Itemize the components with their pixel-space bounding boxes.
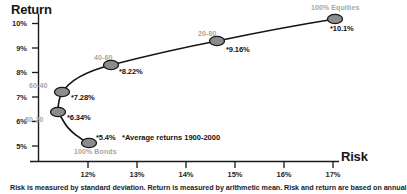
marker-40-60 (104, 60, 119, 69)
y-tick-label-9: 9% (5, 45, 27, 53)
point-label-40-60: 40-60 (94, 54, 112, 61)
point-label-100-bonds: 100% Bonds (74, 148, 117, 155)
data-point-markers (51, 14, 343, 147)
y-axis-title: Return (11, 3, 52, 16)
marker-20-80 (210, 36, 225, 45)
point-label-20-80: 20-80 (198, 30, 216, 37)
y-tick-label-5: 5% (5, 143, 27, 151)
x-tick-label-12: 12% (75, 171, 101, 179)
y-tick-label-6: 6% (5, 118, 27, 126)
frontier-curve (58, 19, 335, 143)
y-tick-label-7: 7% (5, 94, 27, 102)
marker-100-equities (328, 14, 343, 23)
average-returns-annotation: *Average returns 1900-2000 (122, 134, 220, 142)
point-value-100-equities: *10.1% (330, 25, 354, 33)
x-tick-label-17: 17% (320, 171, 346, 179)
chart-footnote: Risk is measured by standard deviation. … (10, 183, 407, 192)
point-label-100-equities: 100% Equities (311, 4, 359, 11)
x-tick-label-14: 14% (173, 171, 199, 179)
point-label-60-40: 60-40 (29, 82, 47, 89)
marker-80-20 (51, 107, 66, 116)
marker-100-bonds (82, 138, 97, 147)
point-value-100-bonds: *5.4% (96, 134, 116, 142)
point-value-80-20: *6.34% (67, 114, 91, 122)
x-tick-label-13: 13% (124, 171, 150, 179)
y-tick-label-8: 8% (5, 69, 27, 77)
x-axis-ticks (88, 162, 333, 169)
x-axis-title: Risk (341, 150, 368, 163)
point-value-20-80: *9.16% (226, 46, 250, 54)
marker-60-40 (55, 87, 70, 96)
point-value-40-60: *8.22% (119, 68, 143, 76)
y-tick-label-10: 10% (5, 20, 27, 28)
x-tick-label-15: 15% (222, 171, 248, 179)
point-value-60-40: *7.28% (71, 94, 95, 102)
point-label-80-20: 80-20 (25, 116, 43, 123)
x-tick-label-16: 16% (271, 171, 297, 179)
